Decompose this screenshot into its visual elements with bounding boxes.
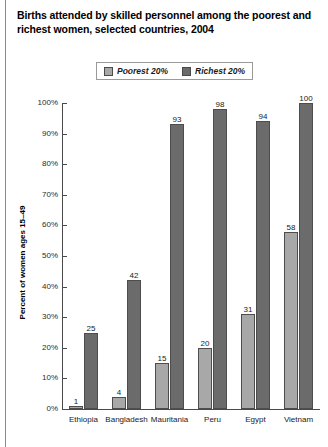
y-axis-tick-label: 30% <box>42 312 58 321</box>
bar-groups: 12544215932098319458100 <box>62 103 320 409</box>
legend-label-richest: Richest 20% <box>195 66 245 76</box>
bar[interactable]: 42 <box>127 280 141 409</box>
y-axis-tick-label: 40% <box>42 282 58 291</box>
legend-swatch-richest <box>182 67 191 76</box>
x-axis-category-label: Ethiopia <box>62 415 105 424</box>
bar-group: 442 <box>105 103 148 409</box>
x-axis-category-label: Peru <box>191 415 234 424</box>
bar[interactable]: 31 <box>241 314 255 409</box>
bar[interactable]: 1 <box>69 406 83 409</box>
legend-entry-poorest: Poorest 20% <box>104 66 168 76</box>
bar-value-label: 4 <box>117 389 121 397</box>
x-axis-category-label: Vietnam <box>277 415 320 424</box>
bar-value-label: 15 <box>158 355 167 363</box>
y-axis-tick-label: 70% <box>42 190 58 199</box>
y-axis-title: Percent of women ages 15–49 <box>18 203 27 323</box>
legend-label-poorest: Poorest 20% <box>117 66 168 76</box>
bar[interactable]: 93 <box>170 124 184 409</box>
bar-pair: 442 <box>105 103 148 409</box>
y-axis-tick-label: 60% <box>42 220 58 229</box>
bar-pair: 58100 <box>277 103 320 409</box>
bar-value-label: 93 <box>173 116 182 124</box>
y-axis-tick: 0% <box>62 409 67 410</box>
x-axis-category-label: Egypt <box>234 415 277 424</box>
bar[interactable]: 15 <box>155 363 169 409</box>
bar-pair: 2098 <box>191 103 234 409</box>
bar[interactable]: 25 <box>84 333 98 410</box>
bar-value-label: 58 <box>287 224 296 232</box>
bar-pair: 3194 <box>234 103 277 409</box>
legend-swatch-poorest <box>104 67 113 76</box>
bar-value-label: 98 <box>216 101 225 109</box>
bar[interactable]: 4 <box>112 397 126 409</box>
bar-value-label: 31 <box>244 306 253 314</box>
bar-value-label: 20 <box>201 340 210 348</box>
bar-group: 1593 <box>148 103 191 409</box>
y-axis-tick-label: 100% <box>38 98 58 107</box>
bar-value-label: 94 <box>259 113 268 121</box>
bar-group: 58100 <box>277 103 320 409</box>
bar[interactable]: 58 <box>284 232 298 409</box>
x-axis-category-label: Bangladesh <box>105 415 148 424</box>
legend-entry-richest: Richest 20% <box>182 66 245 76</box>
bar-value-label: 100 <box>299 95 312 103</box>
x-axis-line <box>62 409 320 410</box>
bar-pair: 1593 <box>148 103 191 409</box>
y-axis-tick-label: 50% <box>42 251 58 260</box>
chart-title: Births attended by skilled personnel amo… <box>17 8 317 36</box>
y-axis-tick-label: 80% <box>42 159 58 168</box>
bar-pair: 125 <box>62 103 105 409</box>
bar[interactable]: 20 <box>198 348 212 409</box>
x-axis-category-label: Mauritania <box>148 415 191 424</box>
chart-figure: Births attended by skilled personnel amo… <box>0 0 328 447</box>
bar-group: 2098 <box>191 103 234 409</box>
x-axis-category-labels: EthiopiaBangladeshMauritaniaPeruEgyptVie… <box>62 415 320 424</box>
y-axis-tick-mark <box>62 409 67 410</box>
bar[interactable]: 98 <box>213 109 227 409</box>
bar-group: 3194 <box>234 103 277 409</box>
y-axis-tick-label: 90% <box>42 129 58 138</box>
bar-group: 125 <box>62 103 105 409</box>
y-axis-tick-label: 20% <box>42 343 58 352</box>
chart-legend: Poorest 20% Richest 20% <box>96 62 253 80</box>
bar-value-label: 1 <box>74 398 78 406</box>
bar[interactable]: 94 <box>256 121 270 409</box>
bar-value-label: 42 <box>130 272 139 280</box>
y-axis-tick-label: 10% <box>42 373 58 382</box>
bar-value-label: 25 <box>87 325 96 333</box>
bar[interactable]: 100 <box>299 103 313 409</box>
y-axis-tick-label: 0% <box>46 404 58 413</box>
